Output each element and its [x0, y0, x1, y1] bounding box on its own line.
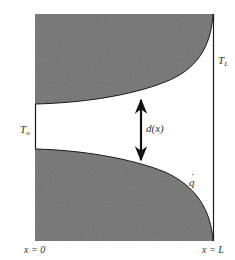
channel-diagram: To TL d(x) q · x = 0 x = L [0, 0, 235, 260]
lower-wall-region [35, 149, 213, 241]
x-start-label: x = 0 [23, 244, 45, 255]
heat-flux-dot: · [191, 168, 195, 180]
upper-wall-region [35, 14, 213, 104]
gap-width-label: d(x) [146, 122, 164, 135]
outlet-temperature-label: TL [218, 54, 228, 68]
x-end-label: x = L [201, 244, 224, 255]
inlet-temperature-label: To [20, 123, 30, 137]
